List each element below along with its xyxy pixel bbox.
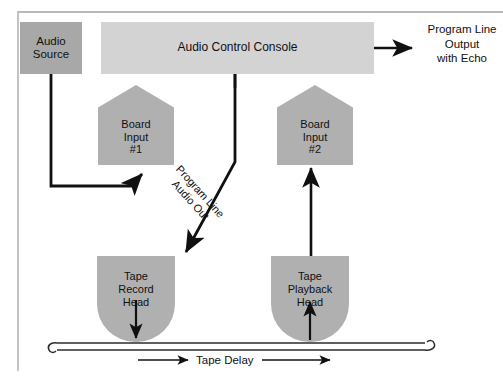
- node-board-input-1-label: Board Input #1: [121, 118, 150, 165]
- label-program-line-output: Program Line Output with Echo: [420, 22, 503, 66]
- node-audio-source-label: Audio Source: [33, 35, 69, 62]
- node-tape-record-head: Tape Record Head: [97, 256, 175, 342]
- node-tape-playback-head: Tape Playback Head: [271, 256, 349, 342]
- node-audio-source: Audio Source: [20, 22, 82, 74]
- diagram-canvas: Audio Source Audio Control Console Board…: [0, 0, 503, 386]
- node-tape-playback-head-label: Tape Playback Head: [288, 256, 333, 308]
- node-audio-control-console-label: Audio Control Console: [177, 41, 297, 55]
- node-tape-record-head-label: Tape Record Head: [118, 256, 153, 308]
- label-tape-delay: Tape Delay: [196, 354, 254, 366]
- node-board-input-2-label: Board Input #2: [300, 118, 329, 165]
- node-audio-control-console: Audio Control Console: [101, 22, 374, 74]
